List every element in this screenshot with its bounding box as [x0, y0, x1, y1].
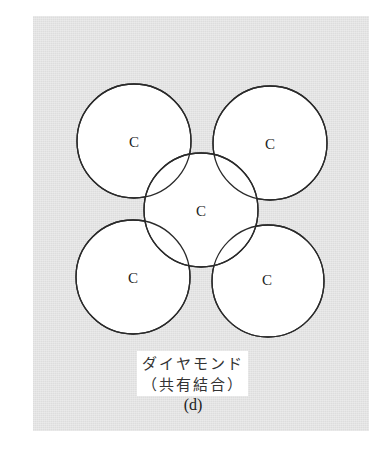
- atom-label-top-left: C: [129, 134, 139, 150]
- atom-label-bottom-right: C: [262, 272, 272, 288]
- atom-label-bottom-left: C: [128, 270, 138, 286]
- figure-tag: (d): [0, 396, 386, 414]
- caption-subtitle: （共有結合）: [0, 373, 386, 394]
- atom-label-top-right: C: [265, 136, 275, 152]
- caption-title: ダイヤモンド: [0, 352, 386, 373]
- atom-label-center: C: [196, 203, 206, 219]
